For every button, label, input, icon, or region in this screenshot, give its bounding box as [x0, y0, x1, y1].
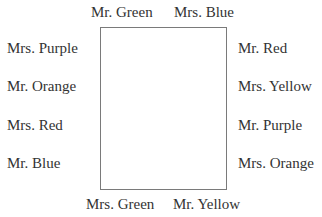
seat-bottom-2: Mr. Yellow	[173, 196, 240, 213]
seat-left-1: Mrs. Purple	[7, 40, 78, 57]
seat-top-1: Mr. Green	[91, 4, 153, 21]
seat-right-3: Mr. Purple	[238, 117, 302, 134]
table-rectangle	[100, 27, 227, 190]
seat-right-4: Mrs. Orange	[238, 155, 314, 172]
seat-left-2: Mr. Orange	[7, 78, 76, 95]
seat-left-4: Mr. Blue	[7, 155, 60, 172]
seat-left-3: Mrs. Red	[7, 117, 63, 134]
seat-right-1: Mr. Red	[238, 40, 287, 57]
seat-right-2: Mrs. Yellow	[238, 78, 312, 95]
seat-top-2: Mrs. Blue	[174, 4, 234, 21]
seat-bottom-1: Mrs. Green	[86, 196, 154, 213]
